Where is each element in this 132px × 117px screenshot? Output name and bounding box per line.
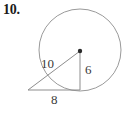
triangle-hypotenuse-segment — [28, 51, 80, 90]
circle-triangle-diagram — [0, 0, 132, 117]
circle-center-dot — [78, 49, 82, 53]
vertical-leg-length-label: 6 — [85, 63, 92, 77]
base-leg-length-label: 8 — [51, 93, 58, 107]
geometry-problem-figure: 10. 10 6 8 — [0, 0, 132, 117]
hypotenuse-length-label: 10 — [41, 57, 54, 71]
